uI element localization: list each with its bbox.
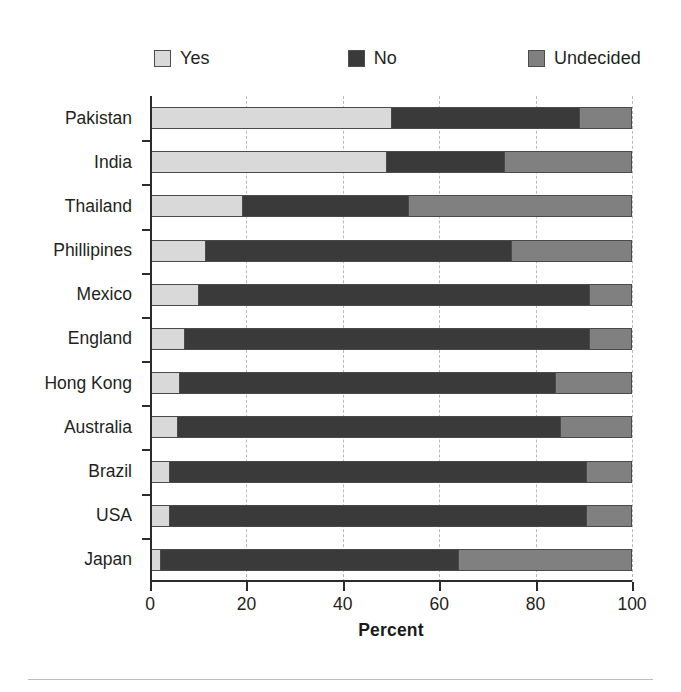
y-tick <box>142 140 150 142</box>
x-axis: 020406080100 <box>150 582 632 652</box>
x-tick-60 <box>439 582 441 591</box>
y-label-hong-kong: Hong Kong <box>44 361 132 405</box>
legend-item-yes: Yes <box>154 49 210 67</box>
y-label-australia: Australia <box>64 405 132 449</box>
y-tick <box>142 361 150 363</box>
x-axis-title: Percent <box>150 620 632 641</box>
x-tick-label-100: 100 <box>617 594 646 615</box>
y-tick <box>142 494 150 496</box>
y-tick <box>142 229 150 231</box>
chart-legend: YesNoUndecided <box>150 44 632 72</box>
gridline-100 <box>632 96 633 582</box>
y-tick <box>142 405 150 407</box>
y-tick <box>142 184 150 186</box>
y-label-thailand: Thailand <box>65 184 132 228</box>
y-label-brazil: Brazil <box>88 449 132 493</box>
x-tick-100 <box>632 582 634 591</box>
x-tick-label-40: 40 <box>333 594 352 615</box>
plot-frame <box>150 96 632 582</box>
y-tick <box>142 449 150 451</box>
y-label-phillipines: Phillipines <box>53 229 132 273</box>
footer-divider <box>28 679 653 680</box>
y-label-usa: USA <box>96 494 132 538</box>
legend-item-no: No <box>348 49 397 67</box>
legend-item-undecided: Undecided <box>528 49 641 67</box>
legend-swatch-undecided <box>528 50 545 67</box>
x-tick-label-0: 0 <box>145 594 155 615</box>
x-tick-label-80: 80 <box>526 594 545 615</box>
x-tick-40 <box>343 582 345 591</box>
x-tick-20 <box>246 582 248 591</box>
x-tick-label-60: 60 <box>429 594 448 615</box>
y-label-pakistan: Pakistan <box>65 96 132 140</box>
x-tick-80 <box>536 582 538 591</box>
y-label-england: England <box>68 317 132 361</box>
legend-label-undecided: Undecided <box>554 49 641 67</box>
y-tick <box>142 273 150 275</box>
legend-swatch-no <box>348 50 365 67</box>
legend-label-yes: Yes <box>180 49 210 67</box>
stacked-bar-chart-figure: YesNoUndecided PakistanIndiaThailandPhil… <box>0 0 681 692</box>
legend-label-no: No <box>374 49 397 67</box>
y-label-japan: Japan <box>84 538 132 582</box>
y-axis-category-labels: PakistanIndiaThailandPhillipinesMexicoEn… <box>0 96 142 582</box>
y-label-india: India <box>94 140 132 184</box>
legend-swatch-yes <box>154 50 171 67</box>
y-tick <box>142 317 150 319</box>
x-tick-label-20: 20 <box>237 594 256 615</box>
y-tick <box>142 538 150 540</box>
plot-area <box>150 96 632 582</box>
y-label-mexico: Mexico <box>77 273 132 317</box>
x-tick-0 <box>150 582 152 591</box>
